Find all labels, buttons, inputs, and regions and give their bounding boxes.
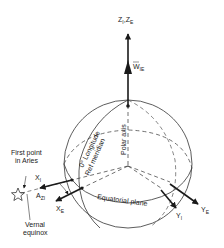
x-earth-arrow (56, 188, 82, 201)
y-inertial-label: YI (176, 212, 182, 221)
center-to-ye (128, 166, 170, 182)
reference-meridian-front (79, 100, 128, 228)
omega-arrowhead (124, 60, 132, 74)
x-earth-origin-dot (80, 186, 83, 189)
polar-axis-label: Polar axis (120, 124, 127, 155)
vernal-label-line2: equinox (23, 229, 48, 237)
aries-pointer (24, 176, 26, 188)
diagram-canvas: ZI,ZE WIE Polar axis 0° Longitude Ref me… (0, 0, 224, 248)
azimuth-angle-arc (60, 184, 68, 194)
y-inertial-arrow (161, 190, 176, 208)
first-point-label-line2: in Aries (15, 157, 38, 164)
north-pole-dot (126, 104, 130, 108)
vernal-label-line1: Vernal (25, 221, 45, 228)
first-point-label-line1: First point (11, 149, 42, 157)
z-axis-label: ZI,ZE (118, 16, 134, 25)
y-earth-arrow (170, 184, 198, 204)
azimuth-angle-label: AZI (36, 192, 45, 201)
reference-meridian-back (128, 100, 176, 227)
y-earth-label: YE (201, 206, 210, 215)
star-icon (12, 188, 25, 201)
equatorial-plane-label: Equatorial plane (97, 193, 148, 208)
x-earth-label: XE (56, 205, 65, 214)
vernal-pointer (27, 194, 30, 220)
omega-label: WIE (133, 63, 145, 72)
reference-frame-diagram: ZI,ZE WIE Polar axis 0° Longitude Ref me… (0, 0, 224, 248)
x-inertial-origin-dot (70, 178, 73, 181)
x-inertial-label: XI (35, 174, 41, 183)
center-to-xi (72, 166, 128, 180)
